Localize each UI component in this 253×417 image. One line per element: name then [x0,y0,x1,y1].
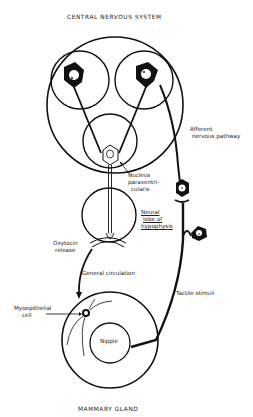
neural-line3: hypophysis [141,223,173,230]
nucleus-line3: cularis [128,186,159,193]
label-afferent-nervous-pathway: Afferent nervous pathway [190,126,240,140]
milk-ejection-reflex-diagram [0,0,253,417]
sensory-receptor-icon [183,226,207,241]
oxytocin-line2: release [53,247,78,254]
myoepithelial-line2: cell [14,312,51,319]
label-general-circulation: General circulation [82,270,135,277]
label-nucleus-paraventricularis: Nucleus paraventri- cularis [128,172,159,193]
label-tactile-stimuli: Tactile stimuli [176,290,214,297]
label-myoepithelial-cell: Myoepithelial cell [14,305,51,319]
nucleus-line1: Nucleus [128,172,159,179]
title-central-nervous-system: CENTRAL NERVOUS SYSTEM [67,14,162,20]
label-oxytocin-release: Oxytocin release [53,240,78,254]
afferent-line1: Afferent [190,126,240,133]
label-nipple: Nipple [100,338,118,345]
oxytocin-line1: Oxytocin [53,240,78,247]
neural-line1: Neural [141,209,173,216]
label-neural-lobe-of-hypophysis: Neural lobe of hypophysis [141,209,173,230]
afferent-line2: nervous pathway [190,133,240,140]
neural-line2: lobe of [141,216,173,223]
myoepithelial-line1: Myoepithelial [14,305,51,312]
nucleus-line2: paraventri- [128,179,159,186]
afferent-neuron-icon [175,179,189,202]
title-mammary-gland: MAMMARY GLAND [78,406,138,412]
paraventricular-neuron-icon [103,145,118,239]
